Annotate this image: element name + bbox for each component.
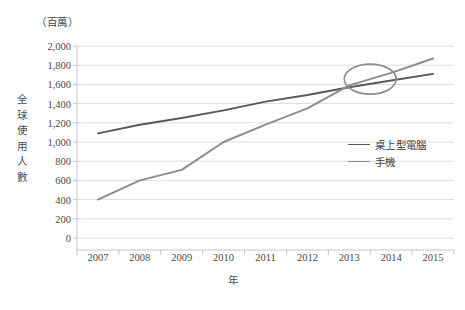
x-tick-label: 2010: [213, 252, 234, 263]
x-tick-label: 2009: [171, 252, 192, 263]
x-tick-label: 2008: [129, 252, 150, 263]
chart-legend: 桌上型電腦 手機: [348, 136, 460, 170]
x-axis-tick-labels: 2007 2008 2009 2010 2011 2012 2013 2014 …: [77, 252, 454, 268]
x-tick-label: 2012: [297, 252, 318, 263]
x-axis-title: 年: [0, 272, 465, 287]
legend-swatch-mobile: [348, 161, 370, 162]
data-series: [98, 58, 433, 199]
legend-item-desktop: 桌上型電腦: [348, 136, 460, 153]
x-tick-label: 2015: [423, 252, 444, 263]
line-chart: （百萬） 全 球 使 用 人 數 2,000 1,800 1,600 1,400…: [0, 0, 465, 310]
x-tick-label: 2013: [339, 252, 360, 263]
legend-swatch-desktop: [348, 144, 370, 145]
legend-label-mobile: 手機: [375, 154, 396, 169]
x-tick-label: 2011: [255, 252, 276, 263]
legend-item-mobile: 手機: [348, 153, 460, 170]
x-tick-label: 2014: [381, 252, 402, 263]
legend-label-desktop: 桌上型電腦: [375, 137, 427, 152]
x-tick-label: 2007: [87, 252, 108, 263]
